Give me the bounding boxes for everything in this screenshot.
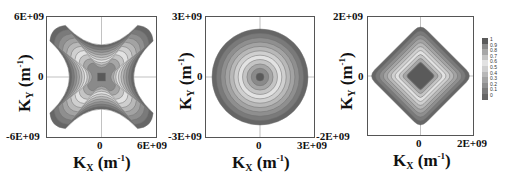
x-label-unit: (m (413, 151, 437, 170)
legend-swatch (482, 94, 488, 100)
colorbar-legend: 10.90.80.70.60.50.40.30.20.10 (482, 38, 506, 100)
y-tick-bottom: -2E+09 (316, 131, 350, 142)
x-tick-zero: 0 (416, 138, 422, 149)
legend-entry: 0 (482, 94, 506, 100)
diamond-contour-graphic (368, 17, 473, 135)
x-label-k: K (393, 151, 406, 170)
plot-panel-diamond: 2E+09 0 -2E+09 0 2E+09 KX (m-1) KY (m-1)… (0, 0, 508, 179)
y-label-sup: -1 (337, 58, 347, 66)
y-label-unit: (m (337, 65, 356, 89)
contour-plot-diamond (367, 16, 474, 136)
y-label-close: ) (337, 52, 356, 58)
x-axis-label: KX (m-1) (393, 152, 451, 171)
y-label-k: K (337, 97, 356, 110)
y-label-sub: Y (346, 90, 357, 97)
x-tick-right: 2E+09 (457, 138, 487, 149)
y-tick-zero: 0 (358, 71, 364, 82)
x-label-sup: -1 (438, 151, 446, 161)
legend-label: 0 (490, 93, 493, 98)
x-label-close: ) (445, 151, 451, 170)
y-tick-top: 2E+09 (333, 11, 363, 22)
y-axis-label: KY (m-1) (338, 52, 357, 110)
